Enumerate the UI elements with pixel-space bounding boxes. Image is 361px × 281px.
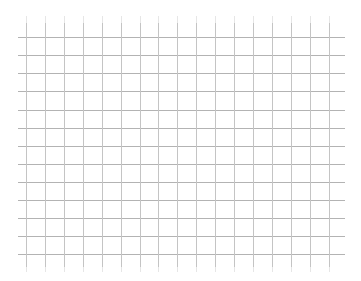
horizontal-gridlines	[18, 38, 345, 255]
grid-plot	[0, 0, 361, 281]
vertical-gridlines	[27, 23, 330, 267]
